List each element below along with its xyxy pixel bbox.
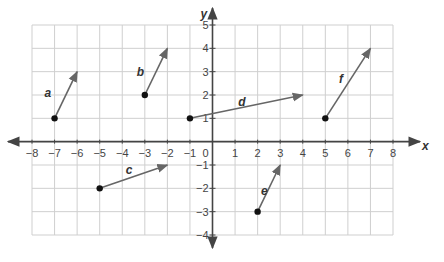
vector-start-point: [96, 185, 102, 191]
x-tick-label: 8: [390, 147, 396, 159]
tick-labels: −8−7−6−5−4−3−2−101234567854321−1−2−3−4: [26, 19, 396, 241]
vector-arrow: [100, 165, 168, 188]
x-tick-label: 7: [367, 147, 373, 159]
x-tick-label: 4: [300, 147, 306, 159]
vector-start-point: [322, 115, 328, 121]
vector-start-point: [142, 92, 148, 98]
vector-start-point: [254, 208, 260, 214]
vector-c: c: [96, 163, 167, 192]
vector-start-point: [187, 115, 193, 121]
x-tick-label: −5: [93, 147, 106, 159]
x-tick-label: −4: [116, 147, 129, 159]
y-tick-label: −3: [196, 206, 209, 218]
y-tick-label: 4: [202, 42, 208, 54]
vector-label: f: [339, 72, 344, 86]
x-tick-label: 0: [202, 147, 208, 159]
vector-f: f: [322, 48, 370, 121]
x-axis-label: x: [421, 139, 430, 153]
vector-label: d: [238, 95, 246, 109]
vector-a: a: [44, 72, 77, 122]
x-tick-label: −6: [71, 147, 84, 159]
vector-label: c: [126, 163, 133, 177]
y-tick-label: −1: [196, 159, 209, 171]
y-tick-label: 3: [202, 66, 208, 78]
x-tick-label: −8: [26, 147, 39, 159]
y-tick-label: −2: [196, 182, 209, 194]
x-tick-label: 2: [255, 147, 261, 159]
vector-diagram: xy −8−7−6−5−4−3−2−101234567854321−1−2−3−…: [0, 0, 444, 262]
vector-start-point: [51, 115, 57, 121]
x-tick-label: 3: [277, 147, 283, 159]
y-tick-label: 5: [202, 19, 208, 31]
vector-label: b: [137, 65, 144, 79]
x-tick-label: −2: [161, 147, 174, 159]
vector-label: e: [261, 184, 268, 198]
y-tick-label: 2: [202, 89, 208, 101]
vector-b: b: [137, 48, 168, 98]
x-tick-label: 5: [322, 147, 328, 159]
vector-e: e: [254, 165, 280, 215]
vector-label: a: [44, 86, 51, 100]
x-tick-label: 1: [232, 147, 238, 159]
x-tick-label: −1: [184, 147, 197, 159]
x-tick-label: −3: [139, 147, 152, 159]
y-tick-label: −4: [196, 229, 209, 241]
x-tick-label: −7: [48, 147, 61, 159]
x-tick-label: 6: [345, 147, 351, 159]
